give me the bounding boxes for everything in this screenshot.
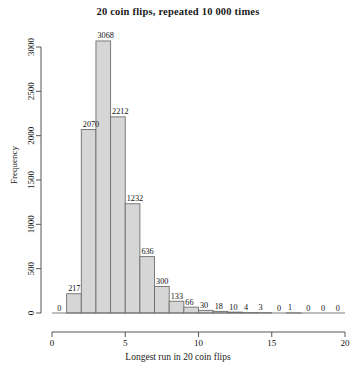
- bar: [111, 117, 126, 313]
- y-axis-tick-label: 2000: [26, 126, 36, 145]
- bar-value-label: 4: [244, 303, 248, 312]
- bar-value-label: 133: [171, 292, 183, 301]
- bar-value-label: 10: [229, 303, 237, 312]
- x-axis-tick-label: 5: [123, 338, 128, 348]
- bar-value-label: 18: [215, 302, 223, 311]
- x-axis-tick-label: 0: [50, 338, 55, 348]
- y-axis-tick-label: 3000: [26, 38, 36, 57]
- y-axis-tick-label: 1000: [26, 215, 36, 234]
- y-axis-tick-label: 500: [26, 261, 36, 275]
- bar-value-label: 3068: [97, 31, 113, 40]
- bar-value-label: 300: [156, 277, 168, 286]
- bar-value-label: 2212: [112, 107, 128, 116]
- bar-value-label: 0: [336, 304, 340, 313]
- bar-value-label: 0: [57, 304, 61, 313]
- bar-value-label: 0: [277, 304, 281, 313]
- x-axis-tick-label: 10: [194, 338, 204, 348]
- chart-canvas: 050010001500200025003000 05101520 021720…: [0, 0, 356, 375]
- bars-group: [52, 41, 345, 313]
- bar: [81, 129, 96, 313]
- bar-value-label: 636: [141, 247, 153, 256]
- x-axis: 05101520: [50, 332, 350, 348]
- y-axis-tick-label: 2500: [26, 82, 36, 101]
- y-axis: 050010001500200025003000: [26, 38, 41, 316]
- y-axis-tick-label: 1500: [26, 171, 36, 190]
- bar-value-label: 217: [68, 284, 80, 293]
- bar: [96, 41, 111, 313]
- bar-value-label: 0: [306, 304, 310, 313]
- bar-value-label: 0: [321, 304, 325, 313]
- y-axis-tick-label: 0: [26, 310, 36, 315]
- bar: [169, 301, 184, 313]
- bar-value-label: 3: [259, 303, 263, 312]
- bar: [155, 286, 170, 313]
- x-axis-tick-label: 15: [267, 338, 277, 348]
- bar-value-label: 66: [185, 298, 193, 307]
- x-axis-tick-label: 20: [341, 338, 351, 348]
- bar: [125, 204, 140, 313]
- bar: [67, 294, 82, 313]
- bar-value-label: 30: [200, 301, 208, 310]
- bar: [140, 257, 155, 313]
- bar-value-label: 2070: [83, 120, 99, 129]
- histogram-chart: 20 coin flips, repeated 10 000 times Fre…: [0, 0, 356, 375]
- bar-value-label: 1232: [127, 194, 143, 203]
- bar: [184, 307, 199, 313]
- bar-value-label: 1: [288, 303, 292, 312]
